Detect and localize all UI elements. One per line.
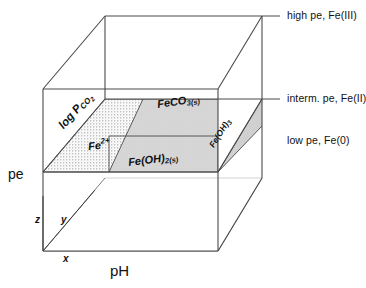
field-label-fe2plus-sup: 2+	[100, 136, 110, 146]
pe-level-intermediate-label: interm. pe, Fe(II)	[287, 92, 366, 104]
field-label-fe2plus: Fe2+	[87, 138, 110, 152]
pe-level-high-label: high pe, Fe(III)	[287, 9, 357, 21]
field-label-fe2plus-base: Fe	[87, 139, 101, 152]
axis-tick-x: x	[63, 253, 69, 264]
axis-tick-z: z	[35, 214, 40, 225]
axis-title-pe: pe	[8, 166, 24, 182]
field-label-feoh2-sub: 2(s)	[164, 155, 178, 166]
pe-level-low-label: low pe, Fe(0)	[287, 134, 350, 146]
level-leader-lines	[262, 16, 280, 178]
field-label-feco3-sub: 3(s)	[186, 97, 200, 108]
axis-tick-y: y	[61, 214, 67, 225]
axis-title-ph: pH	[110, 262, 129, 279]
